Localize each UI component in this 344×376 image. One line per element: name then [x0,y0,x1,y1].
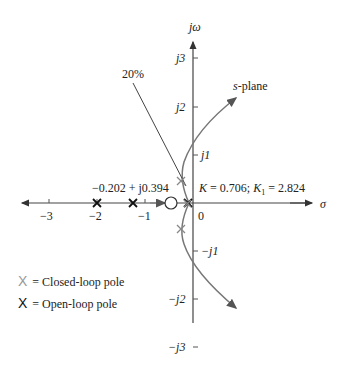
jw-axis-label: jω [187,20,201,34]
sigma-axis-label: σ [320,197,327,211]
damping-line-20pct [133,83,186,186]
damping-label: 20% [122,67,144,81]
y-tick-label-j3: j3 [174,51,185,65]
open-loop-pole-icon: X [18,295,27,311]
gain-label: K = 0.706; K1 = 2.824 [198,181,305,197]
x-tick-label-neg1: −1 [138,209,151,223]
x-tick-label-neg3: −3 [40,209,53,223]
closed-loop-legend-text: = Closed-loop pole [32,275,124,289]
closed-loop-point-label: −0.202 + j0.394 [92,181,169,195]
open-loop-zero [165,197,177,209]
legend-closed-loop: X = Closed-loop pole [18,273,124,290]
closed-loop-poles [177,177,191,233]
open-loop-legend-text: = Open-loop pole [32,297,117,311]
legend-open-loop: X = Open-loop pole [18,295,117,312]
root-locus-diagram: jω σ s-plane −3 −2 −1 0 j3 j2 j1 −j1 −j2… [0,0,344,376]
y-tick-label-j2: j2 [174,100,185,114]
y-tick-label-j1: j1 [199,148,210,162]
closed-loop-pole-icon: X [18,273,27,289]
x-tick-label-0: 0 [198,209,204,223]
x-tick-label-neg2: −2 [89,209,102,223]
y-tick-label-neg-j3: −j3 [168,340,185,354]
y-tick-label-neg-j1: −j1 [201,244,218,258]
y-tick-label-neg-j2: −j2 [168,292,185,306]
s-plane-label: s-plane [233,79,268,93]
